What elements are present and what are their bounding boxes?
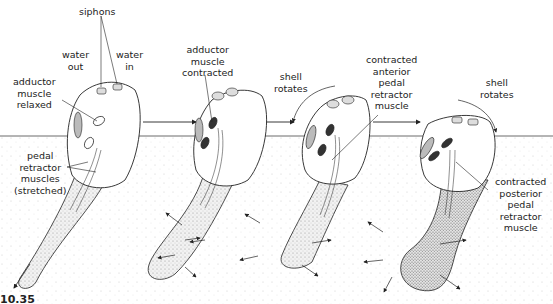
posterior-retractor-label: contracted posterior pedal retractor mus… xyxy=(495,176,546,234)
adductor-contracted-label: adductor muscle contracted xyxy=(182,44,233,79)
water-in-label: water in xyxy=(116,49,143,72)
figure-number: 10.35 xyxy=(0,293,35,304)
shell-rotates-label-4: shell rotates xyxy=(480,77,514,100)
adductor-relaxed-label: adductor muscle relaxed xyxy=(13,76,56,111)
siphons-label: siphons xyxy=(79,6,115,18)
water-out-label: water out xyxy=(62,49,89,72)
diagram-canvas xyxy=(0,0,553,304)
shell-rotates-label-3: shell rotates xyxy=(274,71,308,94)
anterior-retractor-label: contracted anterior pedal retractor musc… xyxy=(366,54,417,112)
pedal-retractor-stretched-label: pedal retractor muscles (stretched) xyxy=(14,150,66,196)
burrowing-diagram: siphons water out water in adductor musc… xyxy=(0,0,553,304)
